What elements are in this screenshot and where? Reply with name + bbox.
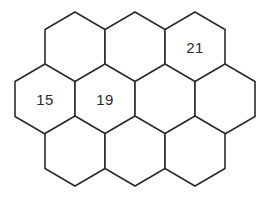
hex-label-r0c2: 21	[186, 39, 203, 56]
hexagon-grid-figure: 211519	[0, 0, 270, 205]
hexagon-grid-canvas: 211519	[0, 0, 270, 205]
hex-label-r1c0: 15	[36, 91, 53, 108]
hex-label-r1c1: 19	[96, 91, 113, 108]
